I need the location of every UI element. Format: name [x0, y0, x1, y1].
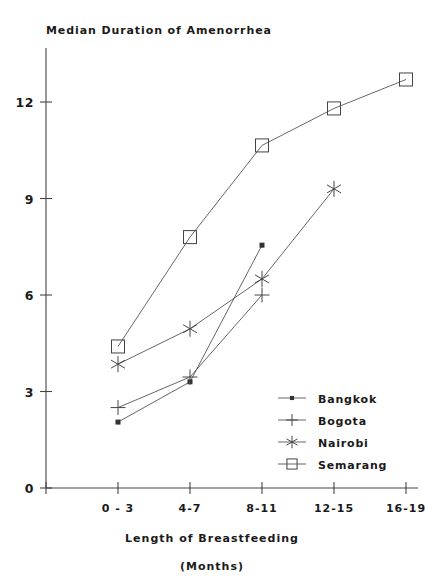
chart-container: Median Duration of Amenorrhea 036912 0 -… [0, 0, 440, 583]
data-point-marker-filled-square [290, 396, 293, 399]
chart-plot-area: 036912 0 - 34-78-1112-1516-19 BangkokBog… [0, 0, 440, 583]
x-tick-label: 8-11 [246, 502, 278, 515]
legend-item-semarang[interactable]: Semarang [278, 459, 387, 472]
series-semarang [112, 73, 413, 353]
y-tick-label: 12 [16, 95, 34, 110]
y-tick-label: 3 [25, 385, 34, 400]
legend-item-bangkok[interactable]: Bangkok [278, 393, 377, 406]
chart-legend: BangkokBogotaNairobiSemarang [278, 393, 387, 472]
legend-label: Bangkok [318, 393, 377, 406]
data-point-marker-filled-square [260, 243, 264, 247]
y-tick-label: 0 [25, 481, 34, 496]
legend-label: Semarang [318, 459, 387, 472]
legend-label: Nairobi [318, 437, 369, 450]
data-point-marker-asterisk [111, 356, 125, 372]
legend-label: Bogota [318, 415, 367, 428]
series-line-bogota [118, 295, 262, 408]
data-point-marker-plus [255, 288, 270, 303]
x-axis-title: Length of Breastfeeding [125, 532, 299, 545]
x-tick-label: 4-7 [179, 502, 202, 515]
y-tick-label: 6 [25, 288, 34, 303]
series-bogota [111, 288, 270, 416]
series-line-nairobi [118, 189, 334, 364]
series-line-semarang [118, 79, 406, 346]
data-point-marker-plus [286, 414, 298, 426]
legend-item-nairobi[interactable]: Nairobi [278, 436, 369, 450]
y-tick-label: 9 [25, 192, 34, 207]
x-tick-label: 16-19 [386, 502, 426, 515]
data-point-marker-filled-square [116, 420, 120, 424]
series-nairobi [111, 181, 341, 372]
chart-series-group [111, 73, 413, 424]
legend-item-bogota[interactable]: Bogota [278, 414, 367, 427]
x-tick-label: 0 - 3 [102, 502, 135, 515]
data-point-marker-plus [111, 400, 126, 415]
x-tick-label: 12-15 [314, 502, 354, 515]
data-point-marker-asterisk [183, 321, 197, 337]
x-axis-title-units: (Months) [180, 560, 244, 573]
x-axis-ticks: 0 - 34-78-1112-1516-19 [46, 482, 426, 515]
